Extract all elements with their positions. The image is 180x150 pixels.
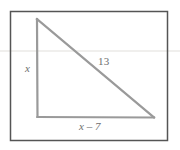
label-horizontal-leg: x – 7 bbox=[79, 121, 100, 132]
label-hypotenuse: 13 bbox=[98, 56, 110, 67]
geometry-figure: x 13 x – 7 bbox=[0, 0, 180, 150]
triangle-side-vertical-leg bbox=[37, 19, 38, 117]
label-vertical-leg: x bbox=[25, 63, 30, 74]
triangle-side-horizontal-leg bbox=[38, 117, 155, 118]
